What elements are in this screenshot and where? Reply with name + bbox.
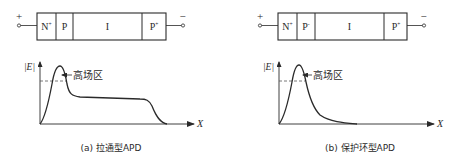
layer-n-plus: N+ — [41, 21, 51, 32]
apd-diagram: + N+ P I P+ − |E| X — [0, 0, 461, 166]
electric-field-curve — [40, 66, 167, 124]
layer-i: I — [106, 21, 109, 32]
negative-terminal-label: − — [421, 10, 427, 22]
field-plot-a: |E| X 高场区 — [24, 62, 204, 129]
device-structure-a: + N+ P I P+ − — [16, 10, 186, 40]
negative-terminal-label: − — [180, 10, 186, 22]
panel-a: + N+ P I P+ − |E| X — [16, 10, 204, 153]
layer-p-plus: P+ — [392, 21, 401, 32]
field-plot-b: |E| X 高场区 — [263, 62, 444, 129]
high-field-region-label: 高场区 — [313, 69, 343, 81]
layer-n-plus: N+ — [282, 21, 292, 32]
device-structure-b: + N+ P- I P+ − — [257, 10, 427, 40]
caption-a: (a) 拉通型APD — [81, 142, 142, 153]
high-field-region-label: 高场区 — [73, 69, 103, 81]
layer-p-plus: P+ — [150, 21, 159, 32]
positive-terminal-icon — [17, 24, 20, 27]
y-axis-label: |E| — [24, 62, 35, 72]
layer-p: P — [62, 21, 68, 32]
layer-i: I — [348, 21, 351, 32]
positive-terminal-icon — [258, 24, 261, 27]
negative-terminal-icon — [181, 24, 184, 27]
negative-terminal-icon — [422, 24, 425, 27]
panel-b: + N+ P- I P+ − |E| X 高场区 (b) 保护环型A — [257, 10, 444, 153]
y-axis-label: |E| — [263, 62, 274, 72]
layer-p-minus: P- — [302, 21, 310, 32]
positive-terminal-label: + — [16, 10, 22, 22]
x-axis-label: X — [436, 118, 444, 129]
positive-terminal-label: + — [257, 10, 263, 22]
x-axis-label: X — [196, 118, 204, 129]
caption-b: (b) 保护环型APD — [325, 142, 395, 153]
